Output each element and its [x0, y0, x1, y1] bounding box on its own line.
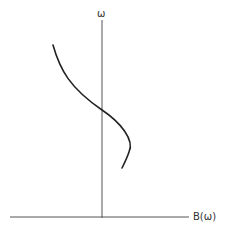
response-curve	[53, 45, 130, 168]
diagram-canvas	[0, 0, 227, 231]
x-axis-label: B(ω)	[193, 212, 216, 222]
y-axis-label: ω	[97, 9, 105, 19]
